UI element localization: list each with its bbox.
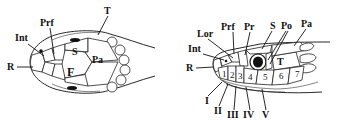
supralabial-number: 7 [295, 69, 300, 79]
lateral-preocular-scale [238, 50, 248, 66]
dorsal-label-prf: Prf [40, 17, 55, 28]
lateral-label-pr: Pr [244, 21, 255, 32]
supralabial-number: 3 [238, 71, 243, 81]
lateral-nostril [225, 60, 228, 63]
infralabial-label: V [262, 109, 270, 120]
dorsal-view: T Prf Int S Pa R F [7, 5, 155, 93]
snake-head-diagram: T Prf Int S Pa R F [0, 0, 339, 130]
leader-line [208, 39, 233, 58]
lateral-label-int: Int [188, 43, 201, 54]
dorsal-label-int: Int [15, 32, 28, 43]
lateral-label-t: T [277, 56, 284, 67]
supralabial-number: 6 [279, 71, 284, 81]
lateral-label-lor: Lor [197, 28, 214, 39]
dorsal-label-r: R [7, 61, 15, 72]
lateral-label-po: Po [281, 20, 292, 31]
leader-line [233, 32, 234, 54]
leader-line [196, 67, 214, 68]
dorsal-eye-mark [70, 38, 80, 42]
dorsal-label-s: S [72, 46, 78, 57]
supralabial-number: 2 [230, 70, 235, 80]
infralabial-label: III [227, 109, 239, 120]
infralabial-label: II [214, 105, 222, 116]
dorsal-label-pa: Pa [92, 54, 103, 65]
lateral-label-prf: Prf [221, 21, 236, 32]
dorsal-label-t: T [104, 5, 111, 16]
lateral-view: 1 2 3 4 5 6 7 Prf Pr S Po Pa Lor Int R T… [186, 18, 330, 120]
supralabial-number: 4 [248, 72, 253, 82]
lateral-label-pa: Pa [301, 18, 312, 29]
infralabial-label: I [205, 95, 209, 106]
leader-line [262, 89, 266, 110]
lateral-label-s: S [270, 20, 276, 31]
supralabial-number: 5 [263, 72, 268, 82]
supralabial-number: 1 [222, 69, 227, 79]
dorsal-label-f: F [67, 65, 74, 79]
leader-line [219, 84, 228, 106]
lateral-eye-pupil [253, 57, 263, 68]
lateral-label-r: R [186, 62, 194, 73]
leader-line [208, 82, 222, 96]
leader-line [234, 86, 236, 110]
infralabial-label: IV [243, 109, 255, 120]
leader-line [246, 87, 250, 110]
